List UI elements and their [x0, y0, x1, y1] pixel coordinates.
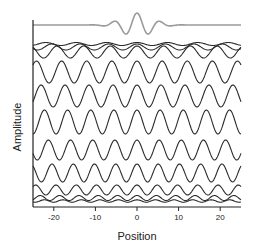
component-curve — [33, 61, 241, 83]
component-curve — [33, 85, 241, 107]
x-axis-title: Position — [117, 230, 156, 242]
x-tick-label: 10 — [174, 213, 183, 222]
y-axis-title: Amplitude — [11, 103, 23, 152]
x-axis-ticks: -20-1001020 — [48, 207, 225, 222]
x-tick-label: 0 — [135, 213, 140, 222]
chart: -20-1001020 Position Amplitude — [0, 0, 256, 249]
component-curve — [33, 46, 241, 58]
x-tick-label: -20 — [48, 213, 60, 222]
component-curve — [33, 164, 241, 182]
component-curve — [33, 200, 241, 202]
component-curve — [33, 140, 241, 160]
fourier-components — [33, 43, 241, 203]
component-curve — [33, 185, 241, 195]
wave-packet-curve — [33, 13, 241, 34]
x-tick-label: -10 — [90, 213, 102, 222]
x-tick-label: 20 — [216, 213, 225, 222]
component-curve — [33, 110, 241, 134]
